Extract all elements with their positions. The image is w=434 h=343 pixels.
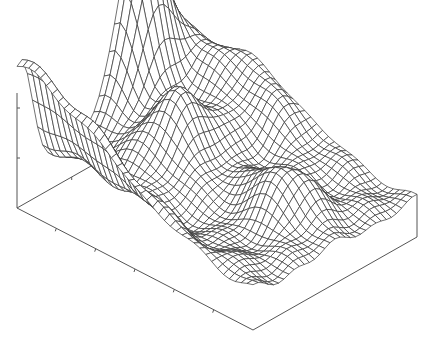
x-tick — [95, 249, 96, 252]
surface-plot — [0, 0, 434, 343]
x-tick — [173, 289, 174, 292]
x-tick — [213, 310, 214, 313]
wireframe-surface — [17, 0, 417, 285]
x-tick — [134, 269, 135, 272]
x-tick — [55, 228, 56, 231]
